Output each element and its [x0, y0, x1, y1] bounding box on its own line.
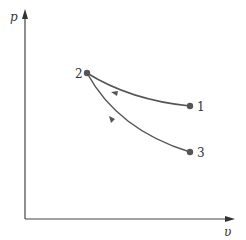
state-point-2	[84, 70, 90, 76]
y-axis-arrow-icon	[22, 9, 28, 19]
state-point-3	[187, 149, 193, 155]
process-1-2-arrow-icon	[111, 91, 118, 96]
process-3-2-curve	[87, 73, 190, 152]
process-1-2-curve	[87, 73, 190, 106]
x-axis-arrow-icon	[225, 216, 235, 222]
state-label-3: 3	[197, 146, 205, 160]
state-label-2: 2	[75, 67, 83, 81]
y-axis-label: p	[10, 10, 18, 24]
state-label-1: 1	[197, 100, 205, 114]
state-point-1	[187, 103, 193, 109]
pv-diagram: p υ 2 1 3	[0, 0, 246, 240]
x-axis-label: υ	[224, 225, 231, 239]
process-3-2-arrow-icon	[109, 116, 115, 123]
